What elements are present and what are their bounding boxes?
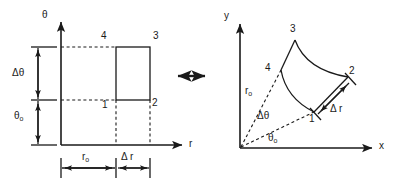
left-dashed-guides bbox=[61, 47, 150, 145]
delta-r-label-left: Δ r bbox=[121, 152, 133, 162]
outer-arc-3-2 bbox=[295, 40, 348, 77]
theta-o-label: θo bbox=[14, 111, 23, 122]
r-o-label-right: ro bbox=[245, 86, 252, 97]
left-corner-label-3: 3 bbox=[153, 31, 159, 41]
right-dashed-radials bbox=[241, 70, 314, 147]
delta-theta-dimension bbox=[31, 47, 57, 100]
theta-o-dimension bbox=[31, 101, 57, 145]
right-axes bbox=[240, 24, 372, 148]
right-corner-label-2: 2 bbox=[349, 66, 355, 76]
inner-arc-4-1 bbox=[281, 70, 314, 112]
radial-edge-4-3 bbox=[281, 40, 295, 70]
right-corner-label-3: 3 bbox=[290, 24, 296, 34]
left-axes bbox=[61, 22, 182, 145]
delta-theta-label-right: Δθ bbox=[257, 111, 269, 121]
delta-r-label-right: Δ r bbox=[330, 104, 342, 114]
right-corner-label-4: 4 bbox=[265, 63, 271, 73]
left-corner-label-1: 1 bbox=[102, 100, 108, 110]
figure-svg bbox=[0, 0, 402, 188]
dash-radial-inner-theta bbox=[241, 112, 314, 147]
r-o-label: ro bbox=[82, 152, 89, 163]
r-axis-label: r bbox=[189, 139, 192, 149]
x-axis-label: x bbox=[379, 141, 384, 151]
left-corner-label-4: 4 bbox=[101, 31, 107, 41]
theta-axis-label: θ bbox=[42, 10, 48, 20]
physical-cell-curved-quad bbox=[281, 40, 348, 112]
theta-o-label-right: θo bbox=[268, 133, 277, 144]
figure-container: θ r 4 3 1 2 Δθ θo ro Δ r y x 3 4 2 1 ro … bbox=[0, 0, 402, 188]
computational-cell-rectangle bbox=[116, 47, 150, 100]
left-corner-label-2: 2 bbox=[152, 98, 158, 108]
right-corner-label-1: 1 bbox=[309, 114, 315, 124]
y-axis-label: y bbox=[224, 11, 229, 21]
delta-theta-label: Δθ bbox=[12, 68, 24, 78]
